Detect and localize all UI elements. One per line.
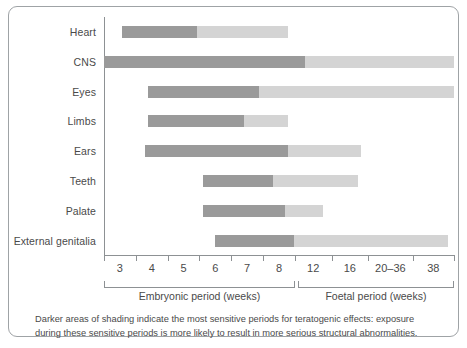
caption-divider xyxy=(9,299,460,300)
axis-tick-label: 20–36 xyxy=(368,262,413,274)
bar-segment-less-sensitive xyxy=(305,56,454,68)
chart-row: Palate xyxy=(9,198,460,224)
row-label-eyes: Eyes xyxy=(9,79,96,105)
teratogenic-sensitivity-figure: HeartCNSEyesLimbsEarsTeethPalateExternal… xyxy=(8,6,459,337)
bar-segment-sensitive xyxy=(148,115,244,127)
axis-tick-label: 7 xyxy=(231,262,263,274)
bar-segment-sensitive xyxy=(145,145,288,157)
bar-segment-less-sensitive xyxy=(197,26,287,38)
axis-tick xyxy=(295,255,296,261)
axis-tick-label: 5 xyxy=(168,262,200,274)
x-axis: 345678121620–3638 Embryonic period (week… xyxy=(9,255,460,297)
chart-row: CNS xyxy=(9,49,460,75)
bar-segment-less-sensitive xyxy=(259,86,454,98)
bar-segment-sensitive xyxy=(104,56,305,68)
axis-tick xyxy=(368,255,369,261)
period-bracket-label: Foetal period (weeks) xyxy=(298,290,454,302)
chart-row: External genitalia xyxy=(9,228,460,254)
bar-segment-sensitive xyxy=(203,175,273,187)
axis-tick xyxy=(332,255,333,261)
chart-row: Heart xyxy=(9,19,460,45)
period-bracket xyxy=(298,281,454,288)
bar-track xyxy=(104,19,454,45)
figure-caption: Darker areas of shading indicate the mos… xyxy=(35,313,441,339)
bar-segment-less-sensitive xyxy=(273,175,358,187)
row-label-external-genitalia: External genitalia xyxy=(9,228,96,254)
axis-tick xyxy=(168,255,169,261)
axis-tick xyxy=(199,255,200,261)
chart-row: Limbs xyxy=(9,108,460,134)
bar-segment-less-sensitive xyxy=(244,115,288,127)
row-label-limbs: Limbs xyxy=(9,108,96,134)
axis-tick-label: 6 xyxy=(199,262,231,274)
bar-track xyxy=(104,168,454,194)
period-bracket xyxy=(104,281,295,288)
horizontal-axis-line xyxy=(104,255,454,256)
axis-tick xyxy=(263,255,264,261)
bar-track xyxy=(104,138,454,164)
axis-tick-label: 8 xyxy=(263,262,295,274)
bar-track xyxy=(104,108,454,134)
axis-tick-label: 3 xyxy=(104,262,136,274)
axis-tick xyxy=(231,255,232,261)
axis-tick xyxy=(136,255,137,261)
bar-segment-sensitive xyxy=(122,26,198,38)
bar-track xyxy=(104,228,454,254)
axis-tick-label: 12 xyxy=(295,262,332,274)
period-bracket-label: Embryonic period (weeks) xyxy=(104,290,295,302)
axis-tick xyxy=(104,255,105,261)
bar-segment-sensitive xyxy=(148,86,259,98)
chart-row: Ears xyxy=(9,138,460,164)
axis-tick xyxy=(413,255,414,261)
chart-plot-area: HeartCNSEyesLimbsEarsTeethPalateExternal… xyxy=(9,7,460,297)
bar-segment-less-sensitive xyxy=(294,235,449,247)
bar-track xyxy=(104,79,454,105)
axis-tick xyxy=(454,255,455,261)
bar-track xyxy=(104,198,454,224)
row-label-cns: CNS xyxy=(9,49,96,75)
bar-segment-less-sensitive xyxy=(288,145,361,157)
row-label-heart: Heart xyxy=(9,19,96,45)
row-label-palate: Palate xyxy=(9,198,96,224)
axis-tick-label: 38 xyxy=(413,262,454,274)
bar-segment-sensitive xyxy=(203,205,285,217)
row-label-ears: Ears xyxy=(9,138,96,164)
row-label-teeth: Teeth xyxy=(9,168,96,194)
axis-tick-label: 4 xyxy=(136,262,168,274)
bar-segment-less-sensitive xyxy=(285,205,323,217)
chart-row: Teeth xyxy=(9,168,460,194)
bar-segment-sensitive xyxy=(215,235,294,247)
bar-track xyxy=(104,49,454,75)
axis-tick-label: 16 xyxy=(332,262,369,274)
chart-row: Eyes xyxy=(9,79,460,105)
